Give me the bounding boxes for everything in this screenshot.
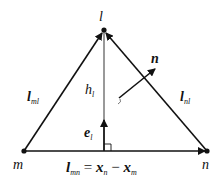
eq-x2-main: x [123,159,131,175]
vertex-l-point [101,27,106,32]
height-sub: l [92,90,94,99]
edge-ml-sub: ml [31,97,39,106]
vertex-n-label: n [202,158,209,172]
edge-nl-sub: nl [184,97,190,106]
eq-lhs-sub: mn [70,168,80,177]
right-angle-marker [104,144,111,151]
normal-label: n [151,52,159,66]
eq-equals: = [84,159,92,175]
eq-x2-sub: m [131,168,137,177]
height-main: h [85,82,92,97]
vertex-l-label: l [99,10,103,24]
eq-minus: − [111,159,119,175]
angle-tick [118,99,121,104]
vertex-n-point [204,148,209,153]
edge-nl-label: lnl [180,90,190,106]
equation: lmn = xn − xm [66,160,137,177]
vertex-m-label: m [13,158,23,172]
edge-ml-label: lml [27,90,39,106]
unit-vector-label: el [84,126,92,142]
eq-x1-sub: n [103,168,107,177]
height-label: hl [85,83,94,99]
vertex-m-point [21,148,26,153]
unit-vector-sub: l [90,133,92,142]
